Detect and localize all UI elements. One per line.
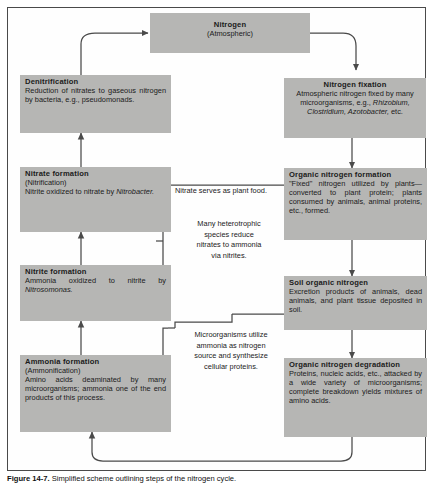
box-denitrification: Denitrification Reduction of nitrates to…	[20, 75, 171, 133]
organic-nitrogen-formation-body: "Fixed" nitrogen utilized by plants—conv…	[289, 180, 422, 215]
soil-organic-nitrogen-body: Excretion products of animals, dead anim…	[289, 288, 422, 314]
annotation-nitrate-plant-food: Nitrate serves as plant food.	[155, 186, 287, 197]
box-nitrogen-atmospheric: Nitrogen (Atmospheric)	[150, 13, 310, 53]
nitrogen-fixation-body: Atmospheric nitrogen fixed by many micro…	[289, 90, 421, 116]
box-organic-nitrogen-degradation: Organic nitrogen degradation Proteins, n…	[284, 358, 427, 437]
nitrogen-cycle-figure: Nitrogen (Atmospheric) Denitrification R…	[0, 0, 434, 489]
nitrate-formation-body: Nitrite oxidized to nitrate by Nitrobact…	[25, 188, 166, 197]
box-soil-organic-nitrogen: Soil organic nitrogen Excretion products…	[284, 276, 427, 330]
caption-text: Simplified scheme outlining steps of the…	[52, 474, 236, 483]
denitrification-body: Reduction of nitrates to gaseous nitroge…	[25, 87, 166, 104]
organic-nitrogen-degradation-body: Proteins, nucleic acids, etc., attacked …	[289, 370, 422, 405]
annotation-microorganisms-utilize: Microorganisms utilize ammonia as nitrog…	[168, 330, 294, 372]
nitrite-formation-body: Ammonia oxidized to nitrite by Nitrosomo…	[25, 277, 166, 294]
box-organic-nitrogen-formation: Organic nitrogen formation "Fixed" nitro…	[284, 168, 427, 240]
box-nitrite-formation: Nitrite formation Ammonia oxidized to ni…	[20, 265, 171, 321]
nitrogen-atmospheric-subtitle: (Atmospheric)	[155, 30, 305, 39]
figure-caption: Figure 14-7. Simplified scheme outlining…	[7, 474, 427, 483]
annotation-heterotrophic-reduction: Many heterotrophic species reduce nitrat…	[170, 219, 288, 261]
box-nitrogen-fixation: Nitrogen fixation Atmospheric nitrogen f…	[284, 78, 426, 138]
box-ammonia-formation: Ammonia formation (Ammonification) Amino…	[20, 355, 171, 432]
box-nitrate-formation: Nitrate formation (Nitrification) Nitrit…	[20, 167, 171, 232]
ammonia-formation-body: Amino acids deaminated by many microorga…	[25, 376, 166, 402]
caption-label: Figure 14-7.	[7, 474, 50, 483]
